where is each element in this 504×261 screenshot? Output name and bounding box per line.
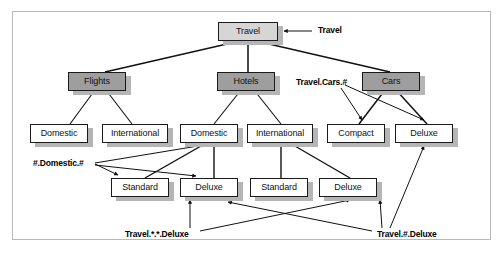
node-hotels-domestic-standard[interactable]: Standard xyxy=(111,178,169,197)
annotation-travel-star-star-deluxe: Travel.*.*.Deluxe xyxy=(125,230,189,239)
node-flights[interactable]: Flights xyxy=(68,72,126,91)
tree-edges-level2 xyxy=(70,90,281,124)
node-cars-deluxe[interactable]: Deluxe xyxy=(395,124,453,143)
node-label: Deluxe xyxy=(195,183,222,192)
node-flights-international[interactable]: International xyxy=(102,124,168,143)
annotation-hash-domestic-hash: #.Domestic.# xyxy=(33,159,84,168)
node-label: Standard xyxy=(122,183,158,192)
node-cars-compact[interactable]: Compact xyxy=(327,124,385,143)
node-label: Deluxe xyxy=(334,183,361,192)
node-label: Standard xyxy=(261,183,297,192)
node-hotels-domestic[interactable]: Domestic xyxy=(180,124,238,143)
annotation-travel-cars-hash: Travel.Cars.# xyxy=(296,78,347,87)
node-label: International xyxy=(256,129,304,138)
node-label: Domestic xyxy=(191,129,228,138)
tree-edges-level1 xyxy=(105,41,390,72)
node-travel[interactable]: Travel xyxy=(218,22,278,41)
node-label: Domestic xyxy=(41,129,78,138)
node-label: Compact xyxy=(338,129,373,138)
tree-edges-level3 xyxy=(145,142,350,178)
node-hotels-domestic-deluxe[interactable]: Deluxe xyxy=(180,178,238,197)
node-hotels-international-standard[interactable]: Standard xyxy=(250,178,308,197)
node-label: Hotels xyxy=(234,77,259,86)
node-hotels[interactable]: Hotels xyxy=(217,72,275,91)
node-flights-domestic[interactable]: Domestic xyxy=(30,124,88,143)
annotation-travel: Travel xyxy=(318,26,342,35)
annotation-travel-hash-deluxe: Travel.#.Deluxe xyxy=(377,230,437,239)
node-label: International xyxy=(111,129,159,138)
node-label: Cars xyxy=(382,77,401,86)
node-hotels-international[interactable]: International xyxy=(247,124,313,143)
node-label: Travel xyxy=(236,27,260,36)
tree-edges-cars xyxy=(359,90,427,124)
node-hotels-international-deluxe[interactable]: Deluxe xyxy=(319,178,377,197)
node-label: Flights xyxy=(84,77,110,86)
figure-container: Travel Flights Hotels Cars Domestic Inte… xyxy=(0,0,504,261)
node-label: Deluxe xyxy=(410,129,437,138)
node-cars[interactable]: Cars xyxy=(362,72,420,91)
